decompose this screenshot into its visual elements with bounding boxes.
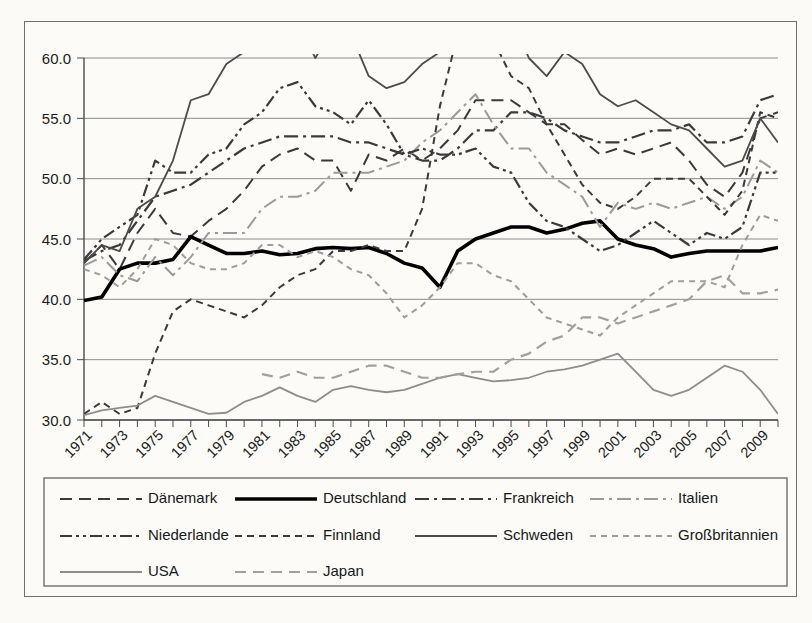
- x-tick-label: 2001: [595, 427, 629, 461]
- legend-entry[interactable]: Deutschland: [235, 489, 406, 506]
- x-axis-tick-labels: 1971197319751977197919811983198519871989…: [61, 427, 771, 461]
- series-line: [84, 94, 778, 281]
- legend-entry[interactable]: Niederlande: [60, 526, 229, 543]
- x-tick-label: 1981: [239, 427, 273, 461]
- x-tick-label: 1973: [97, 427, 131, 461]
- legend-label: Großbritannien: [678, 526, 778, 543]
- x-tick-label: 1977: [168, 427, 202, 461]
- legend-entry[interactable]: Finnland: [235, 526, 381, 543]
- x-tick-label: 1995: [488, 427, 522, 461]
- x-tick-label: 2007: [702, 427, 736, 461]
- x-tick-label: 2009: [737, 427, 771, 461]
- line-chart: 60.055.050.045.040.035.030.0 19711973197…: [0, 0, 812, 623]
- legend-label: Niederlande: [148, 526, 229, 543]
- x-tick-label: 1979: [203, 427, 237, 461]
- data-series-layer: [84, 0, 778, 415]
- x-axis-tickmarks: [84, 420, 778, 427]
- y-tick-label: 30.0: [42, 412, 71, 429]
- x-tick-label: 1983: [275, 427, 309, 461]
- legend-entry[interactable]: Japan: [235, 562, 364, 579]
- x-tick-label: 1985: [310, 427, 344, 461]
- series-line: [84, 16, 778, 414]
- x-tick-label: 1971: [61, 427, 95, 461]
- y-tick-label: 40.0: [42, 291, 71, 308]
- x-tick-label: 2005: [666, 427, 700, 461]
- legend-label: Japan: [323, 562, 364, 579]
- x-tick-label: 1999: [559, 427, 593, 461]
- legend-entry[interactable]: USA: [60, 562, 179, 579]
- series-line: [84, 354, 778, 416]
- y-tick-label: 60.0: [42, 50, 71, 67]
- gridlines: [77, 58, 778, 420]
- legend-entry[interactable]: Frankreich: [415, 489, 574, 506]
- y-tick-label: 50.0: [42, 170, 71, 187]
- legend-label: Frankreich: [503, 489, 574, 506]
- legend-label: Italien: [678, 489, 718, 506]
- y-tick-label: 45.0: [42, 231, 71, 248]
- x-tick-label: 1997: [524, 427, 558, 461]
- legend-entry[interactable]: Italien: [590, 489, 718, 506]
- legend-label: Finnland: [323, 526, 381, 543]
- legend-entry[interactable]: Schweden: [415, 526, 573, 543]
- y-axis-tick-labels: 60.055.050.045.040.035.030.0: [42, 50, 71, 429]
- legend-entry[interactable]: Großbritannien: [590, 526, 778, 543]
- x-tick-label: 1987: [346, 427, 380, 461]
- x-tick-label: 2003: [630, 427, 664, 461]
- legend-label: Schweden: [503, 526, 573, 543]
- legend-label: Dänemark: [148, 489, 218, 506]
- series-line: [262, 275, 778, 378]
- x-tick-label: 1989: [381, 427, 415, 461]
- x-tick-label: 1991: [417, 427, 451, 461]
- x-tick-label: 1993: [452, 427, 486, 461]
- y-tick-label: 35.0: [42, 351, 71, 368]
- y-tick-label: 55.0: [42, 110, 71, 127]
- legend-entries: DänemarkDeutschlandFrankreichItalienNied…: [60, 489, 778, 579]
- legend-label: USA: [148, 562, 179, 579]
- legend-entry[interactable]: Dänemark: [60, 489, 218, 506]
- x-tick-label: 1975: [132, 427, 166, 461]
- series-line: [84, 0, 778, 263]
- legend-label: Deutschland: [323, 489, 406, 506]
